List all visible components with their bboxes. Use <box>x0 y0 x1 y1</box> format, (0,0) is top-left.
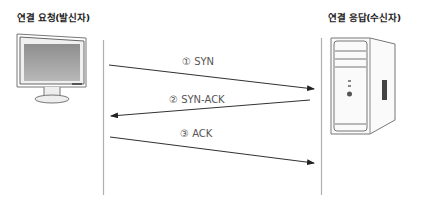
syn-label: ① SYN <box>182 56 214 67</box>
ack-label: ③ ACK <box>180 128 212 139</box>
ack-arrow <box>110 137 314 163</box>
desktop-tower-icon <box>331 38 395 134</box>
monitor-icon <box>17 34 86 103</box>
syn-arrow <box>109 65 314 89</box>
syn-ack-label: ② SYN-ACK <box>169 94 225 105</box>
